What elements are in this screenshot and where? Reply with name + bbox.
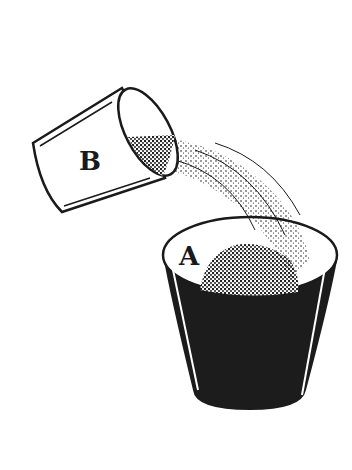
label-glass-b: B <box>79 148 101 174</box>
glass-b <box>33 79 190 212</box>
illustration: B A <box>0 0 352 470</box>
pouring-drawing <box>0 0 352 470</box>
label-glass-a: A <box>179 243 199 269</box>
